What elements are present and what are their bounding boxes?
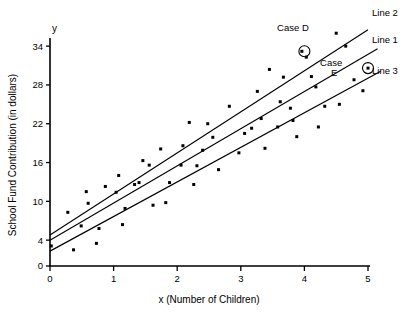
case-annotations-group: Case DCaseE bbox=[277, 22, 373, 79]
data-point bbox=[250, 127, 253, 130]
data-point bbox=[300, 50, 303, 53]
data-point bbox=[310, 75, 313, 78]
data-point bbox=[138, 181, 141, 184]
data-point bbox=[317, 125, 320, 128]
data-point bbox=[117, 174, 120, 177]
data-point bbox=[159, 147, 162, 150]
data-point bbox=[206, 122, 209, 125]
data-point bbox=[115, 191, 118, 194]
data-point bbox=[228, 105, 231, 108]
data-point bbox=[263, 147, 266, 150]
data-point bbox=[217, 168, 220, 171]
data-point bbox=[338, 103, 341, 106]
data-point bbox=[276, 125, 279, 128]
data-point bbox=[282, 76, 285, 79]
y-axis-title: School Fund Contribution (in dollars) bbox=[7, 74, 18, 236]
data-point bbox=[243, 132, 246, 135]
axis-lines bbox=[50, 38, 370, 266]
data-point bbox=[148, 164, 151, 167]
data-point bbox=[279, 100, 282, 103]
data-point bbox=[66, 211, 69, 214]
data-point bbox=[295, 135, 298, 138]
data-point bbox=[85, 190, 88, 193]
data-point bbox=[97, 227, 100, 230]
data-point bbox=[181, 144, 184, 147]
chart-canvas: Line 1Line 2Line 3 041016222834012345 Ca… bbox=[0, 0, 417, 316]
axes-group: 041016222834012345 bbox=[32, 38, 370, 284]
y-tick-label: 10 bbox=[32, 196, 43, 207]
data-point bbox=[141, 159, 144, 162]
data-point bbox=[168, 181, 171, 184]
data-point bbox=[289, 107, 292, 110]
x-tick-label: 3 bbox=[238, 273, 243, 284]
y-tick-label: 22 bbox=[32, 118, 43, 129]
series-label-line-1: Line 1 bbox=[372, 34, 398, 45]
data-point bbox=[121, 223, 124, 226]
data-point bbox=[72, 248, 75, 251]
data-point bbox=[164, 201, 167, 204]
case-e-label-line2: E bbox=[331, 67, 337, 78]
y-tick-label: 4 bbox=[38, 235, 43, 246]
data-point bbox=[201, 149, 204, 152]
data-point bbox=[133, 183, 136, 186]
data-point bbox=[335, 32, 338, 35]
x-tick-label: 0 bbox=[47, 273, 52, 284]
series-label-line-3: Line 3 bbox=[372, 65, 398, 76]
y-tick-label: 34 bbox=[32, 41, 43, 52]
data-point bbox=[268, 68, 271, 71]
data-point bbox=[323, 105, 326, 108]
data-point bbox=[260, 117, 263, 120]
regression-line-line-3 bbox=[50, 71, 381, 251]
data-point bbox=[80, 224, 83, 227]
series-label-line-2: Line 2 bbox=[372, 7, 398, 18]
data-point bbox=[344, 45, 347, 48]
data-point bbox=[291, 119, 294, 122]
y-tick-label: 0 bbox=[38, 260, 43, 271]
x-tick-label: 5 bbox=[365, 273, 370, 284]
data-point bbox=[237, 151, 240, 154]
y-tick-label: 28 bbox=[32, 79, 43, 90]
x-axis-title: x (Number of Children) bbox=[158, 294, 259, 305]
y-tick-label: 16 bbox=[32, 157, 43, 168]
data-point bbox=[367, 67, 370, 70]
x-tick-label: 2 bbox=[175, 273, 180, 284]
regression-lines-group: Line 1Line 2Line 3 bbox=[50, 7, 398, 251]
case-d-label: Case D bbox=[277, 22, 309, 33]
data-point bbox=[180, 164, 183, 167]
x-tick-label: 4 bbox=[302, 273, 307, 284]
data-point bbox=[95, 242, 98, 245]
data-point bbox=[104, 185, 107, 188]
y-axis-symbol: y bbox=[52, 23, 57, 34]
regression-line-line-1 bbox=[50, 49, 378, 240]
data-point bbox=[192, 183, 195, 186]
data-point bbox=[195, 164, 198, 167]
data-point bbox=[87, 202, 90, 205]
data-point bbox=[361, 89, 364, 92]
data-point bbox=[211, 136, 214, 139]
data-point bbox=[314, 85, 317, 88]
scatter-chart-figure: Line 1Line 2Line 3 041016222834012345 Ca… bbox=[0, 0, 417, 316]
x-tick-label: 1 bbox=[111, 273, 116, 284]
data-point bbox=[152, 204, 155, 207]
data-point bbox=[353, 78, 356, 81]
data-point bbox=[256, 90, 259, 93]
data-point bbox=[124, 207, 127, 210]
data-point bbox=[188, 121, 191, 124]
